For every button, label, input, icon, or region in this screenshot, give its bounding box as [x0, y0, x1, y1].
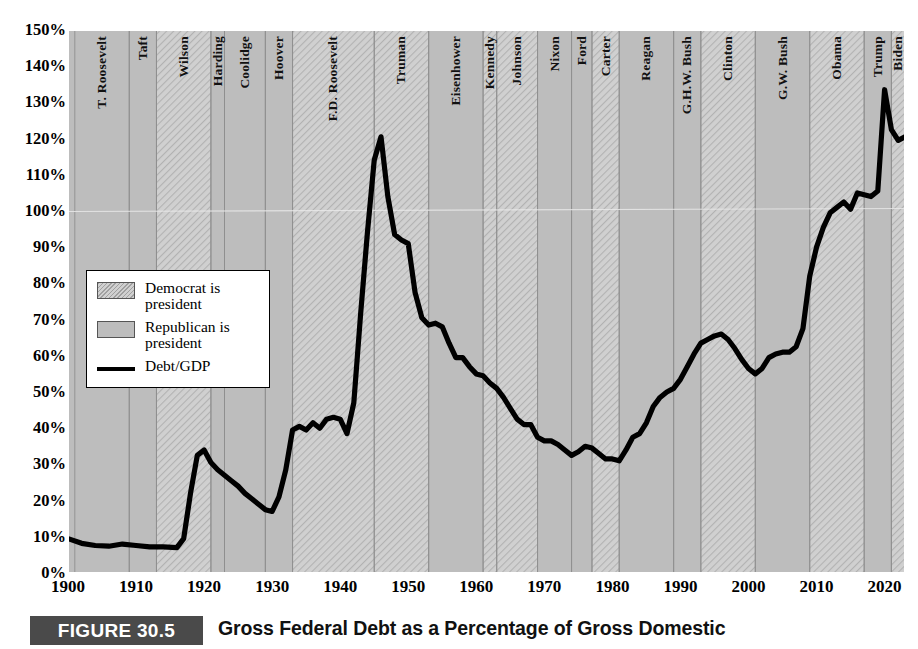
president-label: Biden — [891, 36, 905, 71]
debt-line-swatch-icon — [97, 367, 135, 371]
chart-legend: Democrat is president Republican is pres… — [86, 270, 270, 388]
president-label: G.W. Bush — [775, 36, 789, 100]
president-label: Nixon — [548, 36, 562, 72]
x-axis-tick-label: 1950 — [391, 577, 425, 597]
president-label: Wilson — [177, 36, 191, 77]
legend-label-republican: Republican is president — [145, 319, 261, 352]
x-axis-tick-label: 1980 — [595, 577, 629, 597]
y-axis-tick-label: 30% — [4, 456, 66, 473]
president-label: Harding — [211, 36, 225, 86]
legend-label-democrat: Democrat is president — [145, 280, 261, 313]
y-axis-tick-label: 20% — [4, 492, 66, 509]
president-label: F.D. Roosevelt — [326, 36, 340, 121]
y-axis-tick-label: 140% — [4, 58, 66, 75]
president-label: Carter — [599, 36, 613, 76]
legend-item-democrat: Democrat is president — [97, 280, 261, 313]
democrat-swatch-icon — [97, 282, 135, 299]
x-axis-tick-label: 1940 — [323, 577, 357, 597]
president-label: Trump — [871, 36, 885, 77]
x-axis-tick-label: 2010 — [800, 577, 834, 597]
figure-root: 0%10%20%30%40%50%60%70%80%90%100%110%120… — [0, 0, 918, 649]
y-axis-tick-label: 100% — [4, 203, 66, 220]
x-axis-tick-label: 1910 — [119, 577, 153, 597]
president-label: Coolidge — [238, 36, 252, 89]
president-label: Hoover — [272, 36, 286, 80]
republican-swatch-icon — [97, 321, 135, 338]
president-label: Kennedy — [483, 36, 497, 89]
x-axis-tick-label: 1920 — [187, 577, 221, 597]
president-label: Obama — [830, 36, 844, 80]
figure-title: Gross Federal Debt as a Percentage of Gr… — [218, 617, 725, 640]
president-label: Eisenhower — [449, 36, 463, 106]
y-axis-tick-label: 120% — [4, 130, 66, 147]
y-axis: 0%10%20%30%40%50%60%70%80%90%100%110%120… — [0, 0, 66, 649]
x-axis-tick-label: 1900 — [51, 577, 85, 597]
x-axis-tick-label: 1990 — [663, 577, 697, 597]
legend-label-debt-gdp: Debt/GDP — [145, 358, 210, 374]
x-axis-tick-label: 1960 — [459, 577, 493, 597]
president-label: G.H.W. Bush — [680, 36, 694, 114]
x-axis-tick-label: 2000 — [731, 577, 765, 597]
y-axis-tick-label: 80% — [4, 275, 66, 292]
y-axis-tick-label: 110% — [4, 167, 66, 184]
y-axis-tick-label: 90% — [4, 239, 66, 256]
y-axis-tick-label: 130% — [4, 94, 66, 111]
legend-item-republican: Republican is president — [97, 319, 261, 352]
figure-number-label: FIGURE 30.5 — [58, 620, 175, 642]
figure-number-badge: FIGURE 30.5 — [30, 616, 203, 645]
y-axis-tick-label: 40% — [4, 420, 66, 437]
president-label: Reagan — [639, 36, 653, 81]
y-axis-tick-label: 50% — [4, 384, 66, 401]
president-label: Ford — [575, 36, 589, 65]
x-axis-tick-label: 1930 — [255, 577, 289, 597]
legend-item-debt-line: Debt/GDP — [97, 358, 261, 374]
y-axis-tick-label: 10% — [4, 529, 66, 546]
y-axis-tick-label: 60% — [4, 348, 66, 365]
y-axis-tick-label: 70% — [4, 311, 66, 328]
y-axis-tick-label: 150% — [4, 22, 66, 39]
president-label: Clinton — [721, 36, 735, 81]
x-axis-tick-label: 2020 — [868, 577, 902, 597]
president-label: T. Roosevelt — [95, 36, 109, 109]
president-label: Johnson — [510, 36, 524, 85]
x-axis-tick-label: 1970 — [527, 577, 561, 597]
president-label: Truman — [394, 36, 408, 84]
president-label: Taft — [136, 36, 150, 60]
